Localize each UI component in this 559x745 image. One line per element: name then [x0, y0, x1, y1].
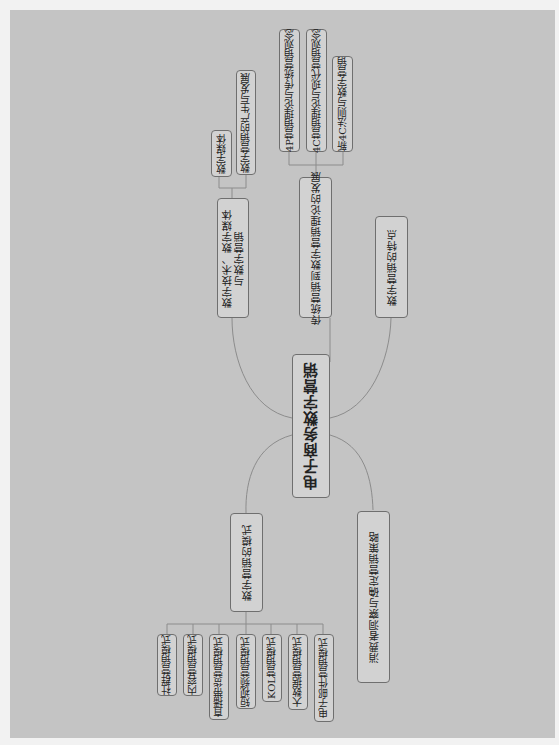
branch-node-digital-features[interactable]: 数字营销的特点 [375, 216, 408, 318]
branch-label: 数字技术、数字媒体与数字营销 [221, 209, 245, 308]
root-node[interactable]: 电子商务数字营销 [292, 354, 330, 498]
root-label: 电子商务数字营销 [303, 362, 320, 490]
leaf-node[interactable]: 数字媒体 [211, 130, 232, 177]
leaf-node[interactable]: 4P营销理论与传统营销观念 [279, 29, 300, 152]
branch-node-digital-modes[interactable]: 数字营销的模式 [230, 513, 263, 612]
leaf-node[interactable]: 社群营销模式 [157, 634, 177, 696]
branch-node-traditional-to-digital[interactable]: 传统营销到数字营销理论的发展 [299, 177, 332, 318]
leaf-node[interactable]: 直播带货营销模式 [209, 634, 229, 720]
leaf-node[interactable]: 数字营销的产生与发展 [236, 70, 256, 175]
leaf-node[interactable]: KOL营销模式 [262, 634, 282, 702]
branch-node-consumer-insight[interactable]: 消费者洞察与确定营销策略 [357, 511, 390, 683]
leaf-node[interactable]: 4C营销理论与现代营销观念 [306, 29, 327, 152]
leaf-node[interactable]: 短视频营销模式 [236, 634, 256, 709]
leaf-node[interactable]: 新4C法则与数字营销 [332, 56, 353, 152]
leaf-node[interactable]: 大数据营销模式 [288, 634, 308, 710]
leaf-node[interactable]: 电子邮件营销模式 [314, 634, 334, 722]
branch-node-digital-tech-media[interactable]: 数字技术、数字媒体与数字营销 [217, 198, 249, 318]
leaf-node[interactable]: 内容营销模式 [183, 634, 203, 696]
